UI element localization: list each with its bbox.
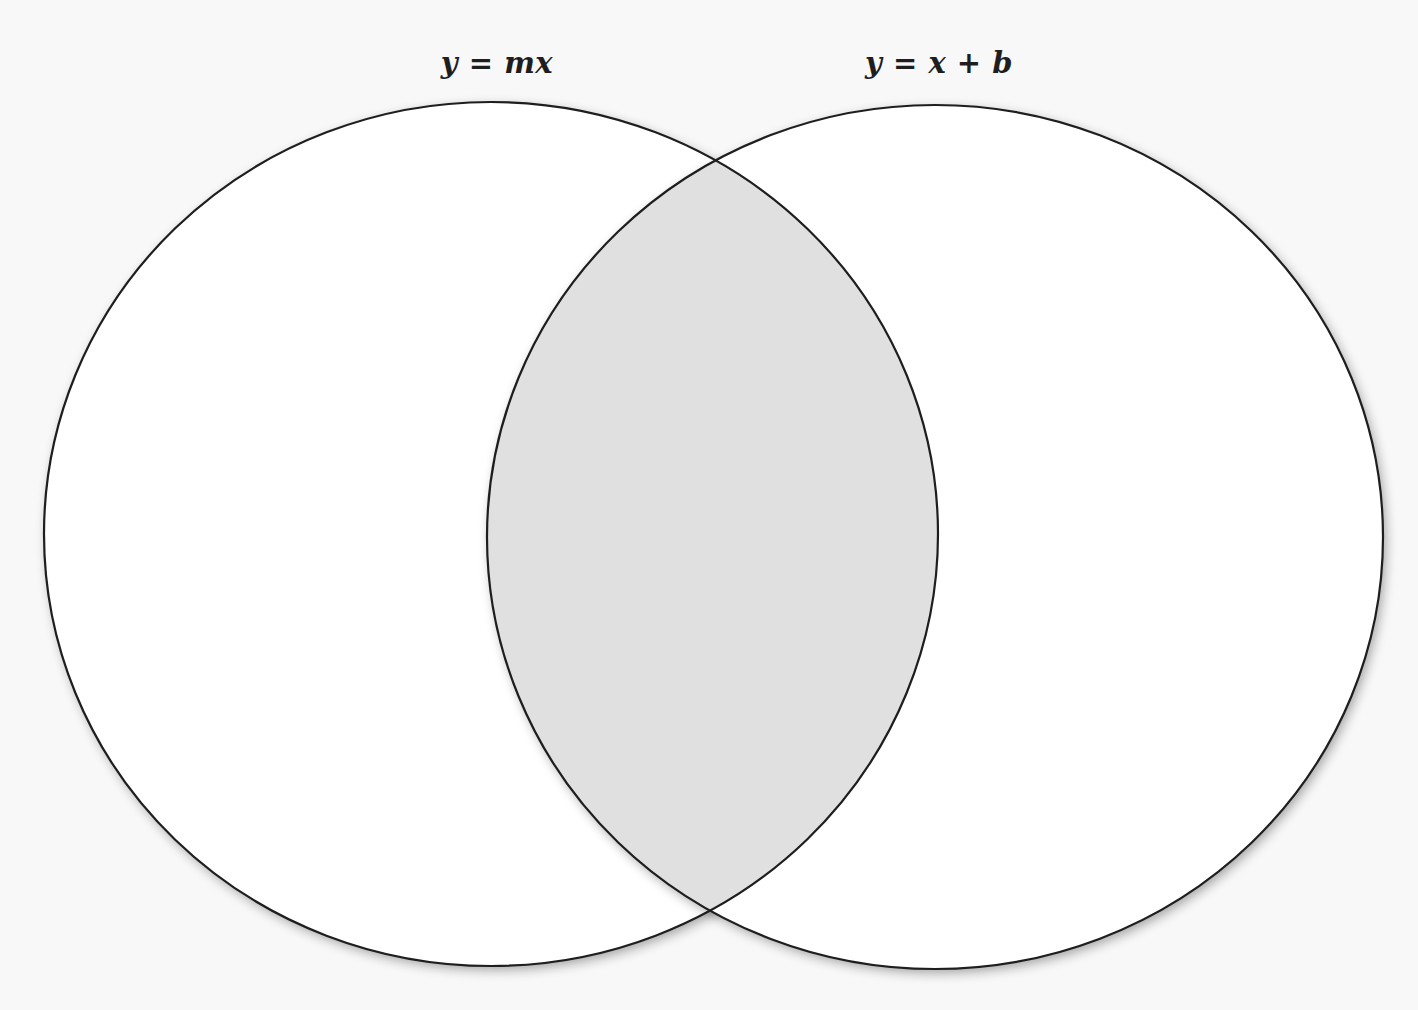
set-left-label: y = mx <box>441 46 553 80</box>
venn-diagram-page: y = mx y = x + b <box>0 0 1418 1010</box>
venn-diagram <box>0 0 1418 1010</box>
set-right-label: y = x + b <box>865 46 1013 80</box>
